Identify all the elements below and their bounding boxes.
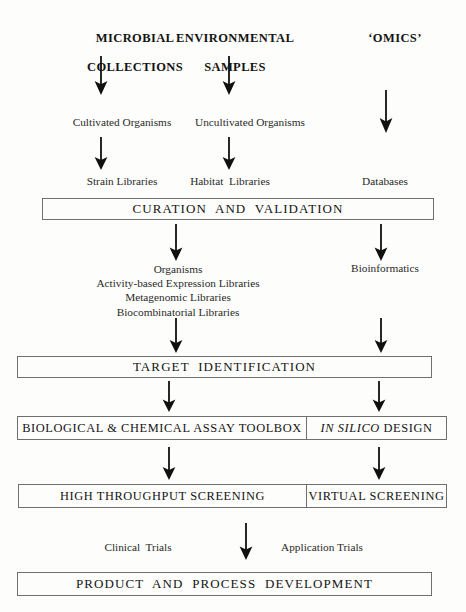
box-target-identification[interactable]: TARGET IDENTIFICATION [17,356,432,378]
label-clinical-trials: Clinical Trials [92,541,184,554]
box-curation-and-validation-label: CURATION AND VALIDATION [43,201,433,217]
label-databases: Databases [335,175,435,188]
label-strain-libraries: Strain Libraries [62,175,182,188]
box-assay-and-design-row: BIOLOGICAL & CHEMICAL ASSAY TOOLBOX IN S… [17,416,447,440]
arrow-curation-to-organisms [167,224,185,262]
arrow-design-to-virtual-screening [370,447,388,481]
arrow-libraries-to-target [167,318,185,354]
box-curation-and-validation[interactable]: CURATION AND VALIDATION [42,198,434,220]
arrow-omics-to-databases [377,90,395,134]
arrow-curation-to-bioinformatics [372,224,390,262]
arrow-microbial-to-cultivated [92,56,110,96]
label-bioinformatics: Bioinformatics [335,262,435,275]
label-application-trials: Application Trials [272,541,372,554]
box-high-throughput-screening-label: HIGH THROUGHPUT SCREENING [60,489,265,504]
box-assay-toolbox-cell[interactable]: BIOLOGICAL & CHEMICAL ASSAY TOOLBOX [18,417,306,439]
arrow-target-to-in-silico-design [370,381,388,413]
label-habitat-libraries: Habitat Libraries [168,175,292,188]
box-in-silico-design-cell[interactable]: IN SILICO DESIGN [306,417,446,439]
box-virtual-screening-label: VIRTUAL SCREENING [309,489,445,504]
header-environmental-samples-line1: ENVIRONMENTAL [176,31,294,45]
box-product-and-process-development-label: PRODUCT AND PROCESS DEVELOPMENT [18,576,431,592]
box-screening-row: HIGH THROUGHPUT SCREENING VIRTUAL SCREEN… [18,484,447,508]
header-omics: ‘OMICS’ [328,16,448,60]
box-in-silico-design-italic-label: IN SILICO [320,421,379,436]
flowchart-canvas: MICROBIAL COLLECTIONS ENVIRONMENTAL SAMP… [0,0,466,612]
box-high-throughput-screening-cell[interactable]: HIGH THROUGHPUT SCREENING [19,485,306,507]
label-uncultivated-organisms: Uncultivated Organisms [160,116,340,129]
box-virtual-screening-cell[interactable]: VIRTUAL SCREENING [306,485,446,507]
arrow-target-to-assay-toolbox [160,381,178,413]
box-target-identification-label: TARGET IDENTIFICATION [18,359,431,375]
box-product-and-process-development[interactable]: PRODUCT AND PROCESS DEVELOPMENT [17,572,432,596]
box-assay-toolbox-label: BIOLOGICAL & CHEMICAL ASSAY TOOLBOX [22,421,302,436]
arrow-cultivated-to-strain-libraries [92,137,110,171]
label-library-outputs: Organisms Activity-based Expression Libr… [58,262,298,319]
box-in-silico-design-plain-label: DESIGN [380,421,433,436]
arrow-uncultivated-to-habitat-libraries [220,137,238,171]
arrow-assay-to-hts [160,447,178,481]
arrow-screening-to-product [237,523,255,561]
arrow-bioinformatics-to-target [372,318,390,354]
header-omics-line1: ‘OMICS’ [368,31,422,45]
arrow-environmental-to-uncultivated [220,56,238,96]
